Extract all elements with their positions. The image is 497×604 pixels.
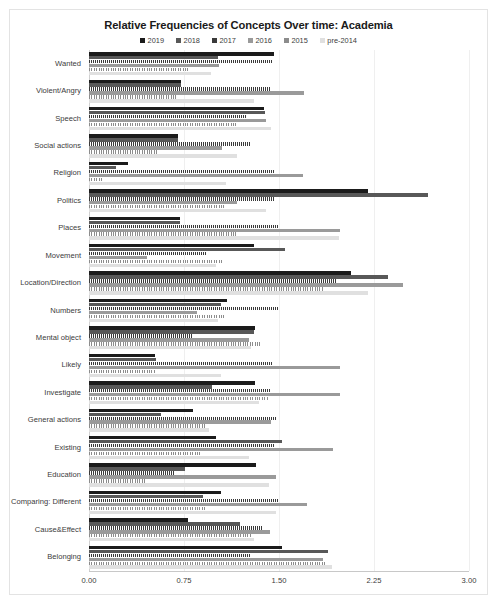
bar-2017[interactable] [89,60,273,63]
bar-2019[interactable] [89,463,256,466]
bar-pre-2014[interactable] [89,264,216,267]
bar-2019[interactable] [89,80,181,83]
bar-2018[interactable] [89,83,181,86]
bar-2019[interactable] [89,546,282,549]
bar-2019[interactable] [89,271,351,274]
bar-pre-2014[interactable] [89,72,211,75]
bar-2019[interactable] [89,299,227,302]
bar-2016[interactable] [89,448,333,451]
bar-2019[interactable] [89,52,274,55]
legend-item-2019[interactable]: 2019 [140,36,164,45]
bar-2019[interactable] [89,381,255,384]
bar-2018[interactable] [89,193,428,196]
bar-2018[interactable] [89,550,328,553]
bar-2015[interactable] [89,562,326,565]
bar-2018[interactable] [89,166,116,169]
bar-2015[interactable] [89,232,237,235]
bar-2015[interactable] [89,342,260,345]
bar-2019[interactable] [89,354,155,357]
bar-2018[interactable] [89,440,282,443]
bar-pre-2014[interactable] [89,401,259,404]
bar-2016[interactable] [89,64,219,67]
bar-pre-2014[interactable] [89,291,368,294]
bar-2017[interactable] [89,417,276,420]
bar-2018[interactable] [89,330,254,333]
bar-2019[interactable] [89,244,254,247]
bar-2016[interactable] [89,393,340,396]
bar-2017[interactable] [89,499,279,502]
legend-item-2015[interactable]: 2015 [284,36,308,45]
bar-pre-2014[interactable] [89,182,226,185]
bar-2017[interactable] [89,115,247,118]
bar-2018[interactable] [89,248,285,251]
bar-2015[interactable] [89,397,268,400]
bar-2017[interactable] [89,334,193,337]
bar-2019[interactable] [89,326,255,329]
bar-2016[interactable] [89,229,340,232]
bar-2016[interactable] [89,119,266,122]
bar-2017[interactable] [89,142,250,145]
bar-2016[interactable] [89,201,237,204]
bar-2017[interactable] [89,389,270,392]
bar-2018[interactable] [89,522,240,525]
bar-pre-2014[interactable] [89,483,269,486]
bar-2016[interactable] [89,174,303,177]
bar-pre-2014[interactable] [89,456,249,459]
legend-item-2017[interactable]: 2017 [212,36,236,45]
bar-2016[interactable] [89,283,403,286]
bar-pre-2014[interactable] [89,374,221,377]
bar-2015[interactable] [89,95,178,98]
bar-2017[interactable] [89,307,279,310]
bar-2015[interactable] [89,205,226,208]
bar-2018[interactable] [89,413,161,416]
bar-pre-2014[interactable] [89,565,332,568]
bar-2019[interactable] [89,436,216,439]
bar-2017[interactable] [89,170,274,173]
bar-2019[interactable] [89,491,221,494]
bar-2017[interactable] [89,526,263,529]
bar-2019[interactable] [89,162,128,165]
bar-2019[interactable] [89,189,368,192]
bar-2015[interactable] [89,150,159,153]
bar-2018[interactable] [89,221,180,224]
bar-2017[interactable] [89,471,175,474]
bar-pre-2014[interactable] [89,236,339,239]
bar-pre-2014[interactable] [89,346,251,349]
bar-2015[interactable] [89,315,226,318]
bar-2018[interactable] [89,138,178,141]
bar-2016[interactable] [89,146,222,149]
bar-pre-2014[interactable] [89,538,254,541]
bar-2017[interactable] [89,87,270,90]
bar-2015[interactable] [89,534,251,537]
bar-2015[interactable] [89,507,207,510]
bar-2016[interactable] [89,420,271,423]
bar-2015[interactable] [89,424,207,427]
legend-item-2018[interactable]: 2018 [176,36,200,45]
bar-2015[interactable] [89,479,146,482]
bar-2019[interactable] [89,107,264,110]
bar-pre-2014[interactable] [89,428,209,431]
bar-2016[interactable] [89,256,147,259]
bar-2017[interactable] [89,554,250,557]
bar-2017[interactable] [89,197,275,200]
bar-2017[interactable] [89,252,207,255]
bar-2017[interactable] [89,225,278,228]
bar-2015[interactable] [89,287,323,290]
bar-2015[interactable] [89,260,223,263]
bar-2015[interactable] [89,68,190,71]
bar-pre-2014[interactable] [89,319,218,322]
bar-2019[interactable] [89,518,188,521]
bar-2019[interactable] [89,217,180,220]
bar-2015[interactable] [89,178,102,181]
bar-2016[interactable] [89,503,307,506]
bar-2018[interactable] [89,111,265,114]
legend-item-2016[interactable]: 2016 [248,36,272,45]
bar-2016[interactable] [89,91,304,94]
bar-2017[interactable] [89,362,273,365]
bar-2015[interactable] [89,452,200,455]
bar-2019[interactable] [89,409,193,412]
bar-2018[interactable] [89,467,185,470]
bar-2015[interactable] [89,370,155,373]
legend-item-pre-2014[interactable]: pre-2014 [320,36,357,45]
bar-pre-2014[interactable] [89,127,271,130]
